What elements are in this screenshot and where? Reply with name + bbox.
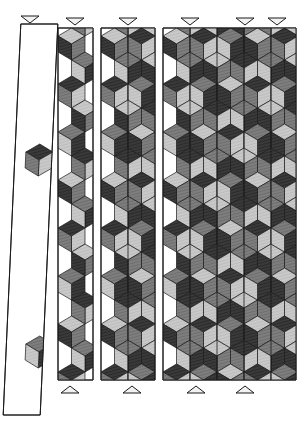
tiling-figure	[0, 0, 304, 435]
wide-multi-column-panel	[163, 4, 304, 396]
single-column-panel	[58, 4, 99, 396]
cube-tiling	[163, 4, 304, 396]
figure-root	[0, 0, 304, 435]
